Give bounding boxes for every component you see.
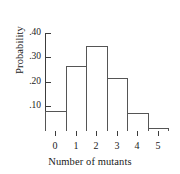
y-tick-mark <box>45 82 51 83</box>
x-tick-mark <box>76 131 77 136</box>
y-tick: .40 <box>45 33 51 34</box>
x-tick-mark <box>96 131 97 136</box>
bar <box>127 113 149 131</box>
x-axis-title: Number of mutants <box>0 155 180 169</box>
y-tick-mark <box>45 57 51 58</box>
bar <box>66 66 88 131</box>
bar <box>107 78 129 131</box>
bar <box>86 46 108 131</box>
x-tick-label: 1 <box>67 139 85 152</box>
plot-area: .10.20.30.40 012345 <box>0 0 180 174</box>
y-tick-mark <box>45 33 51 34</box>
x-tick-mark <box>137 131 138 136</box>
bar <box>45 111 67 131</box>
x-tick-label: 2 <box>87 139 105 152</box>
x-tick-mark <box>158 131 159 136</box>
y-tick: .20 <box>45 82 51 83</box>
x-tick-label: 5 <box>149 139 167 152</box>
y-tick-label: .20 <box>29 75 41 88</box>
y-tick-label: .40 <box>29 26 41 39</box>
histogram-figure: Probability .10.20.30.40 012345 Number o… <box>0 0 180 174</box>
y-tick-label: .10 <box>29 99 41 112</box>
x-tick-label: 0 <box>46 139 64 152</box>
x-tick-label: 4 <box>128 139 146 152</box>
y-tick-mark <box>45 106 51 107</box>
y-tick: .10 <box>45 106 51 107</box>
x-tick-label: 3 <box>108 139 126 152</box>
y-tick-label: .30 <box>29 50 41 63</box>
y-tick: .30 <box>45 57 51 58</box>
x-tick-mark <box>117 131 118 136</box>
x-tick-mark <box>55 131 56 136</box>
